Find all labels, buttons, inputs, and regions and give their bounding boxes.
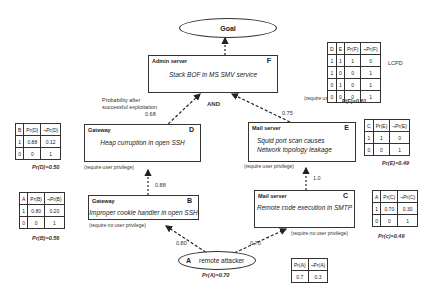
node-c-host: Mail server	[258, 193, 287, 199]
table-cell: 0	[373, 144, 390, 156]
node-f-vuln: Stack BOF in MS SMV service	[149, 70, 277, 79]
cpt-table-f: D E Pr(F) ¬Pr(F) 1110 1001 0101 0001	[327, 42, 381, 103]
table-cell: 0	[344, 79, 360, 91]
node-e-privilege: (require user privilege)	[244, 163, 294, 169]
table-header: ¬Pr(A)	[308, 259, 328, 271]
and-label: AND	[207, 101, 220, 107]
table-cell: 1	[361, 79, 380, 91]
table-header: E	[336, 43, 344, 55]
table-cell: 1	[328, 67, 337, 79]
node-a-id: A	[186, 257, 191, 264]
edge-caption-line1: Probability after	[102, 97, 140, 103]
table-cell: 0	[20, 217, 28, 229]
goal-label: Goal	[220, 25, 236, 32]
table-cell: 0	[328, 79, 337, 91]
table-header: D	[328, 43, 337, 55]
edge-d-f-prob: 0.68	[145, 111, 156, 117]
table-header: Pr(F)	[344, 43, 360, 55]
table-cell: 1	[328, 55, 337, 67]
table-header-row: D E Pr(F) ¬Pr(F)	[328, 43, 381, 55]
table-header: ¬Pr(E)	[390, 120, 410, 132]
table-header: Pr(B)	[28, 193, 45, 205]
table-cell: 0	[365, 144, 374, 156]
table-cell: 0	[28, 217, 45, 229]
table-header: Pr(E)	[373, 120, 390, 132]
table-d-result: Pr(D)=0.50	[32, 164, 59, 170]
table-cell: 0.30	[398, 203, 418, 215]
node-a-label: remote attacker	[199, 257, 244, 264]
node-c-privilege: (require no user privilege)	[291, 230, 348, 236]
table-cell: 0	[24, 148, 41, 160]
cpt-table-c: APr(C)¬Pr(C) 10.700.30 001	[372, 190, 418, 227]
table-cell: 1	[398, 215, 418, 227]
node-a-remote-attacker: A remote attacker	[178, 251, 256, 270]
cpt-table-a: Pr(A)¬Pr(A) 0.70.3	[291, 258, 328, 283]
table-cell: 0.70	[381, 203, 398, 215]
node-b-host: Gateway	[92, 198, 115, 204]
table-cell: 1	[361, 67, 380, 79]
table-row: 110	[365, 132, 410, 144]
table-cell: 1	[365, 132, 374, 144]
node-a-prob: Pr(A)=0.70	[202, 272, 229, 278]
edge-b-d-prob: 0.88	[155, 182, 166, 188]
edge-c-e-prob: 1.0	[313, 175, 321, 181]
table-header: A	[20, 193, 28, 205]
edge-e-f-prob: 0.75	[282, 110, 293, 116]
table-cell: 0	[381, 215, 398, 227]
table-cell: 0	[373, 215, 381, 227]
table-row: 001	[365, 144, 410, 156]
table-row: 10.800.20	[20, 205, 65, 217]
node-f-host: Admin server	[152, 58, 187, 64]
node-e-id: E	[344, 124, 349, 131]
table-cell: 0.80	[28, 205, 45, 217]
cpt-table-d: BPr(D)¬Pr(D) 10.880.12 001	[15, 123, 61, 160]
table-cell: 0.88	[24, 136, 41, 148]
table-row: 10.700.30	[373, 203, 418, 215]
node-c-mail-server: Mail server C Remote code execution in S…	[254, 190, 355, 228]
table-cell: 1	[20, 205, 28, 217]
table-f-result: P(F)=0.61	[342, 98, 367, 104]
table-header: Pr(C)	[381, 191, 398, 203]
table-header: ¬Pr(D)	[41, 124, 61, 136]
node-e-mail-server: Mail server E Squid port scan causes Net…	[248, 122, 356, 162]
edge-a-c-prob: 0.70	[250, 240, 261, 246]
node-e-host: Mail server	[252, 125, 281, 131]
node-d-gateway: Gateway D Heap curruption in open SSH	[84, 124, 201, 162]
node-f-admin-server: Admin server F Stack BOF in MS SMV servi…	[148, 55, 278, 93]
table-b-result: Pr(B)=0.56	[32, 235, 59, 241]
table-cell: 1	[336, 55, 344, 67]
table-row: 10.880.12	[16, 136, 61, 148]
table-cell: 0.3	[308, 271, 328, 283]
table-e-result: Pr(E)=0.49	[382, 160, 409, 166]
node-d-id: D	[189, 126, 194, 133]
node-b-privilege: (require no user privilege)	[89, 222, 146, 228]
table-header: C	[365, 120, 374, 132]
table-cell: 1	[41, 148, 61, 160]
cpt-table-e: CPr(E)¬Pr(E) 110 001	[364, 119, 410, 156]
node-b-gateway: Gateway B Improper cookie handler in ope…	[88, 195, 199, 220]
table-cell: 0	[328, 91, 337, 103]
goal-node: Goal	[179, 18, 277, 38]
table-row: 001	[16, 148, 61, 160]
table-header: ¬Pr(B)	[45, 193, 65, 205]
table-cell: 0.7	[292, 271, 309, 283]
table-cell: 0	[361, 55, 380, 67]
table-cell: 0.20	[45, 205, 65, 217]
table-header: Pr(D)	[24, 124, 41, 136]
table-cell: 1	[16, 136, 24, 148]
table-c-result: Pr(c)=0.49	[378, 233, 404, 239]
edge-e-f	[232, 94, 290, 122]
table-row: 001	[20, 217, 65, 229]
node-e-vuln-line1: Squid port scan causes	[257, 136, 355, 145]
table-header: Pr(A)	[292, 259, 309, 271]
node-b-vuln: Improper cookie handler in open SSH	[89, 208, 198, 217]
table-cell: 0.12	[41, 136, 61, 148]
node-e-vuln-line2: Network topology leakage	[257, 145, 355, 154]
node-f-id: F	[267, 57, 271, 64]
table-header: ¬Pr(F)	[361, 43, 380, 55]
table-cell: 1	[373, 203, 381, 215]
table-row: 0101	[328, 79, 381, 91]
cpt-table-b: APr(B)¬Pr(B) 10.800.20 001	[19, 192, 65, 229]
node-d-host: Gateway	[88, 127, 111, 133]
table-cell: 1	[373, 132, 390, 144]
